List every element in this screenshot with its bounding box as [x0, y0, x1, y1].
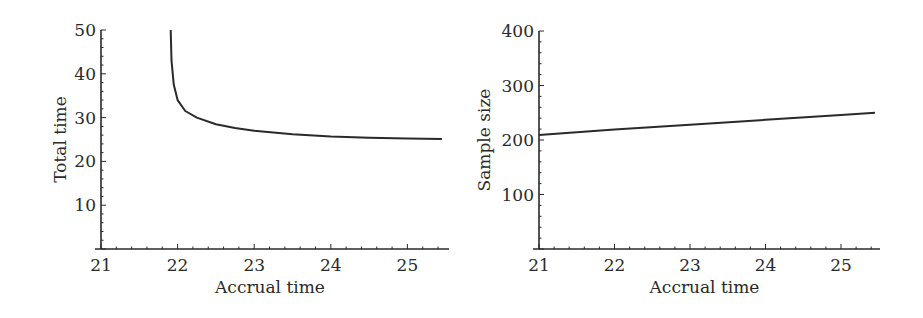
sample-size-chart: 2122232425100200300400Accrual timeSample… — [474, 21, 880, 297]
y-tick-label: 50 — [74, 20, 96, 40]
x-axis-label: Accrual time — [649, 277, 760, 297]
x-tick-label: 23 — [243, 255, 265, 275]
y-tick-label: 20 — [74, 151, 96, 171]
x-axis-label: Accrual time — [214, 277, 325, 297]
y-tick-label: 10 — [74, 195, 96, 215]
y-tick-label: 30 — [74, 108, 96, 128]
series-line — [539, 113, 875, 135]
x-tick-label: 25 — [397, 255, 419, 275]
x-tick-label: 24 — [755, 255, 777, 275]
x-tick-label: 22 — [167, 255, 189, 275]
x-tick-label: 21 — [90, 255, 112, 275]
x-tick-label: 23 — [679, 255, 701, 275]
y-tick-label: 100 — [502, 185, 534, 205]
x-tick-label: 21 — [528, 255, 550, 275]
y-axis-label: Sample size — [474, 89, 494, 192]
y-tick-label: 300 — [502, 76, 534, 96]
y-tick-label: 200 — [502, 130, 534, 150]
series-line — [171, 30, 442, 139]
chart-canvas: 21222324251020304050Accrual timeTotal ti… — [0, 0, 923, 318]
x-tick-label: 24 — [320, 255, 342, 275]
total-time-chart: 21222324251020304050Accrual timeTotal ti… — [50, 20, 449, 297]
y-tick-label: 400 — [502, 21, 534, 41]
y-axis-label: Total time — [50, 96, 70, 183]
x-tick-label: 22 — [604, 255, 626, 275]
x-tick-label: 25 — [830, 255, 852, 275]
y-tick-label: 40 — [74, 64, 96, 84]
